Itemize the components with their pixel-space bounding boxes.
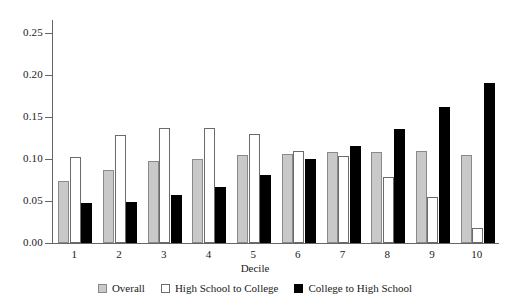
chart-legend: OverallHigh School to CollegeCollege to … bbox=[0, 282, 510, 294]
x-tick-label: 4 bbox=[186, 248, 231, 260]
bar-c2hs-5 bbox=[260, 175, 271, 243]
bar-overall-3 bbox=[148, 161, 159, 243]
x-tick-label: 1 bbox=[52, 248, 97, 260]
bar-c2hs-9 bbox=[439, 107, 450, 243]
y-tick-label: 0.00 bbox=[1, 237, 43, 248]
x-tick-label: 9 bbox=[410, 248, 455, 260]
plot-area bbox=[52, 20, 499, 243]
bar-overall-2 bbox=[103, 170, 114, 243]
bar-c2hs-2 bbox=[126, 202, 137, 243]
bar-hs2c-10 bbox=[472, 228, 483, 243]
bar-group bbox=[237, 20, 271, 243]
x-axis-line bbox=[52, 243, 499, 244]
bar-hs2c-5 bbox=[249, 134, 260, 243]
legend-swatch-icon bbox=[294, 284, 303, 293]
bar-overall-10 bbox=[461, 155, 472, 243]
bar-group bbox=[282, 20, 316, 243]
bar-overall-8 bbox=[371, 152, 382, 243]
bar-overall-4 bbox=[192, 159, 203, 243]
legend-label: High School to College bbox=[175, 282, 279, 294]
bar-overall-9 bbox=[416, 151, 427, 243]
bar-hs2c-4 bbox=[204, 128, 215, 243]
legend-item-c2hs[interactable]: College to High School bbox=[294, 282, 412, 294]
y-tick-mark bbox=[45, 33, 52, 34]
legend-swatch-icon bbox=[98, 284, 107, 293]
y-tick-label: 0.05 bbox=[1, 195, 43, 206]
x-tick-label: 7 bbox=[320, 248, 365, 260]
y-tick-label: 0.15 bbox=[1, 111, 43, 122]
bar-group bbox=[58, 20, 92, 243]
bar-c2hs-4 bbox=[215, 187, 226, 243]
legend-item-overall[interactable]: Overall bbox=[98, 282, 145, 294]
y-tick-label: 0.25 bbox=[1, 27, 43, 38]
bar-hs2c-3 bbox=[159, 128, 170, 243]
bar-chart: 0.000.050.100.150.200.25 12345678910 Dec… bbox=[0, 0, 510, 305]
bar-overall-5 bbox=[237, 155, 248, 243]
x-tick-label: 5 bbox=[231, 248, 276, 260]
bar-group bbox=[461, 20, 495, 243]
legend-label: Overall bbox=[112, 282, 145, 294]
bar-group bbox=[371, 20, 405, 243]
bar-hs2c-6 bbox=[293, 151, 304, 243]
y-tick-label: 0.10 bbox=[1, 153, 43, 164]
y-tick-mark bbox=[45, 243, 52, 244]
bar-hs2c-2 bbox=[115, 135, 126, 243]
y-tick-mark bbox=[45, 159, 52, 160]
bar-group bbox=[416, 20, 450, 243]
bar-group bbox=[192, 20, 226, 243]
x-tick-label: 6 bbox=[276, 248, 321, 260]
x-tick-label: 2 bbox=[97, 248, 142, 260]
x-tick-label: 8 bbox=[365, 248, 410, 260]
bar-hs2c-1 bbox=[70, 157, 81, 243]
bar-group bbox=[327, 20, 361, 243]
bar-hs2c-9 bbox=[427, 197, 438, 243]
y-tick-label: 0.20 bbox=[1, 69, 43, 80]
bar-c2hs-8 bbox=[394, 129, 405, 243]
bar-overall-1 bbox=[58, 181, 69, 243]
bar-hs2c-8 bbox=[383, 177, 394, 243]
x-tick-label: 10 bbox=[454, 248, 499, 260]
bar-group bbox=[103, 20, 137, 243]
x-axis-title: Decile bbox=[0, 262, 510, 274]
bar-c2hs-6 bbox=[305, 159, 316, 243]
bar-c2hs-1 bbox=[81, 203, 92, 243]
x-tick-label: 3 bbox=[141, 248, 186, 260]
bar-c2hs-7 bbox=[350, 146, 361, 243]
legend-item-hs2c[interactable]: High School to College bbox=[161, 282, 279, 294]
bar-hs2c-7 bbox=[338, 156, 349, 243]
bar-c2hs-3 bbox=[171, 195, 182, 243]
bar-group bbox=[148, 20, 182, 243]
legend-swatch-icon bbox=[161, 284, 170, 293]
legend-label: College to High School bbox=[308, 282, 412, 294]
y-tick-mark bbox=[45, 75, 52, 76]
bar-c2hs-10 bbox=[484, 83, 495, 243]
y-tick-mark bbox=[45, 201, 52, 202]
bar-overall-6 bbox=[282, 154, 293, 243]
y-tick-mark bbox=[45, 117, 52, 118]
bar-overall-7 bbox=[327, 152, 338, 243]
